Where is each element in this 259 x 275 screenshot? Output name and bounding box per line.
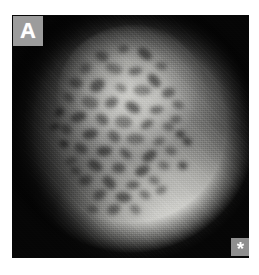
- asterisk-marker-symbol: *: [237, 244, 244, 254]
- endoscopic-photograph: A *: [12, 15, 249, 258]
- panel-label-box: A: [13, 16, 43, 46]
- panel-label-text: A: [20, 20, 36, 42]
- halftone-texture: [12, 15, 249, 258]
- figure-panel: A *: [0, 0, 259, 275]
- asterisk-marker-box: *: [231, 238, 249, 256]
